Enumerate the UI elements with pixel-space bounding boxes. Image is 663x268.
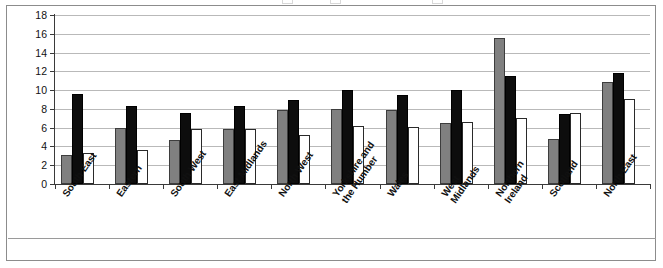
bar (440, 123, 451, 184)
x-tick-mark (434, 184, 435, 189)
bar-group (380, 15, 434, 184)
bar (602, 82, 613, 184)
x-tick-mark (542, 184, 543, 189)
x-tick-mark (163, 184, 164, 189)
y-tick-label-12: 12 (7, 66, 47, 77)
legend-swatch-series3 (432, 0, 443, 4)
bar (277, 110, 288, 184)
x-tick-mark (488, 184, 489, 189)
x-tick-mark (109, 184, 110, 189)
bar-group (542, 15, 596, 184)
x-tick-mark (217, 184, 218, 189)
bar-group (55, 15, 109, 184)
figure-bottom-rule (8, 238, 656, 239)
clipped-legend-strip (0, 0, 663, 4)
y-tick-label-6: 6 (7, 123, 47, 134)
chart-figure: 024681012141618 South EastEasternSouth W… (0, 0, 663, 268)
y-tick-label-10: 10 (7, 85, 47, 96)
y-tick-label-4: 4 (7, 141, 47, 152)
legend-swatch-series1 (282, 0, 293, 4)
x-tick-mark (55, 184, 56, 189)
y-tick-label-8: 8 (7, 104, 47, 115)
y-tick-label-2: 2 (7, 160, 47, 171)
x-tick-mark (596, 184, 597, 189)
bar (386, 110, 397, 184)
bar-group (488, 15, 542, 184)
bar (331, 109, 342, 184)
bar-group (434, 15, 488, 184)
x-tick-mark-end (650, 184, 651, 189)
x-tick-mark (380, 184, 381, 189)
y-tick-label-14: 14 (7, 48, 47, 59)
plot-frame: 024681012141618 South EastEasternSouth W… (6, 5, 656, 261)
legend-swatch-series2 (330, 0, 341, 4)
bar (494, 38, 505, 184)
x-tick-mark (325, 184, 326, 189)
x-tick-mark (271, 184, 272, 189)
y-tick-label-16: 16 (7, 29, 47, 40)
bar-group (109, 15, 163, 184)
y-tick-label-0: 0 (7, 179, 47, 190)
bar-group (596, 15, 650, 184)
y-tick-label-18: 18 (7, 10, 47, 21)
